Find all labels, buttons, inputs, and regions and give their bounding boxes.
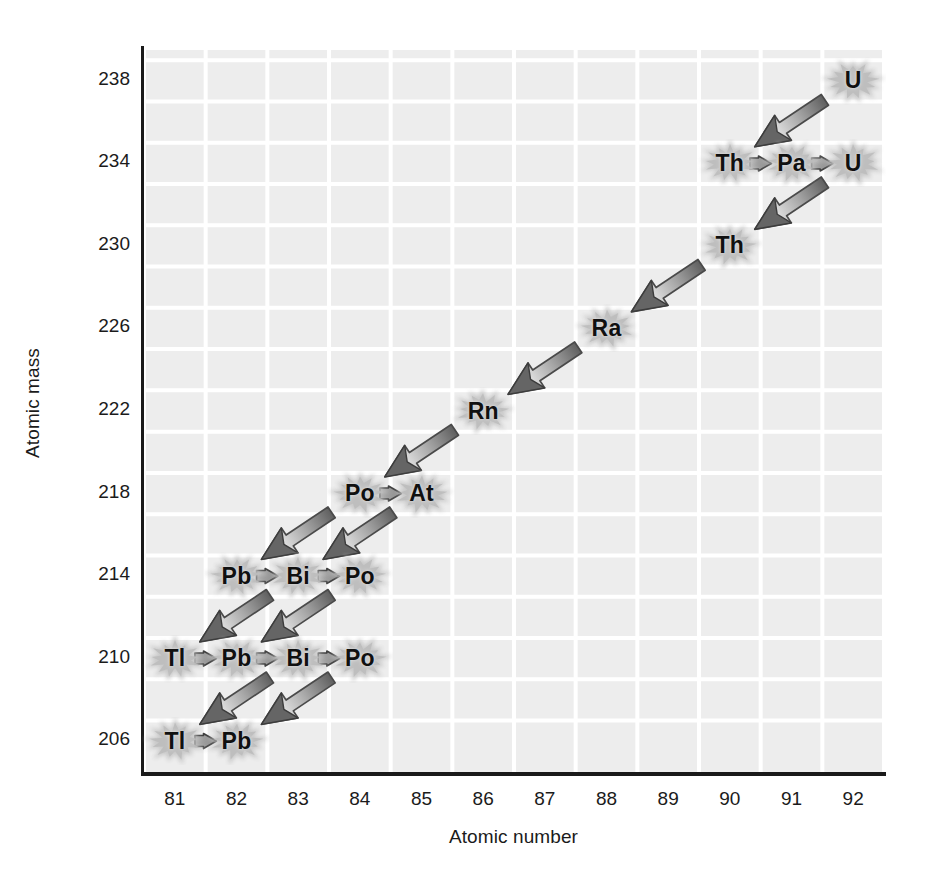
nuclide-symbol: Bi xyxy=(286,563,309,590)
nuclide-Pa-234[interactable]: Pa xyxy=(759,139,825,187)
nuclide-symbol: Pb xyxy=(222,728,252,755)
nuclide-symbol: Po xyxy=(345,563,375,590)
y-axis-tick-labels: 238234230226222218214210206 xyxy=(75,0,130,877)
nuclide-symbol: Pb xyxy=(222,645,252,672)
y-tick-238: 238 xyxy=(82,68,130,90)
nuclide-Tl-206[interactable]: Tl xyxy=(142,717,208,765)
y-tick-218: 218 xyxy=(82,481,130,503)
x-tick-83: 83 xyxy=(278,788,318,810)
nuclide-Bi-214[interactable]: Bi xyxy=(265,552,331,600)
nuclide-symbol: Th xyxy=(716,150,745,177)
nuclide-symbol: At xyxy=(409,480,434,507)
decay-series-figure: 238234230226222218214210206 Atomic mass xyxy=(0,0,926,877)
x-tick-84: 84 xyxy=(340,788,380,810)
y-axis-title: Atomic mass xyxy=(22,308,44,498)
x-tick-86: 86 xyxy=(463,788,503,810)
nuclide-Po-210[interactable]: Po xyxy=(327,635,393,683)
nuclide-Rn-222[interactable]: Rn xyxy=(450,387,516,435)
x-tick-90: 90 xyxy=(710,788,750,810)
nuclide-symbol: Pa xyxy=(777,150,806,177)
nuclide-U-234[interactable]: U xyxy=(820,139,886,187)
nuclide-Po-218[interactable]: Po xyxy=(327,470,393,518)
nuclide-U-238[interactable]: U xyxy=(820,57,886,105)
y-tick-226: 226 xyxy=(82,315,130,337)
y-tick-230: 230 xyxy=(82,233,130,255)
x-axis-line xyxy=(141,772,886,776)
nuclide-symbol: Po xyxy=(345,480,375,507)
nuclide-symbol: Tl xyxy=(164,728,185,755)
y-tick-234: 234 xyxy=(82,150,130,172)
nuclide-Pb-210[interactable]: Pb xyxy=(204,635,270,683)
x-tick-92: 92 xyxy=(833,788,873,810)
nuclide-Tl-210[interactable]: Tl xyxy=(142,635,208,683)
nuclide-symbol: Pb xyxy=(222,563,252,590)
x-tick-88: 88 xyxy=(587,788,627,810)
nuclide-Po-214[interactable]: Po xyxy=(327,552,393,600)
x-tick-87: 87 xyxy=(525,788,565,810)
nuclide-Th-230[interactable]: Th xyxy=(697,222,763,270)
x-tick-89: 89 xyxy=(648,788,688,810)
y-tick-222: 222 xyxy=(82,398,130,420)
x-tick-81: 81 xyxy=(155,788,195,810)
nuclide-symbol: Rn xyxy=(468,398,499,425)
nuclide-Pb-214[interactable]: Pb xyxy=(204,552,270,600)
nuclide-Ra-226[interactable]: Ra xyxy=(574,304,640,352)
nuclide-Th-234[interactable]: Th xyxy=(697,139,763,187)
nuclide-symbol: U xyxy=(845,150,862,177)
x-tick-91: 91 xyxy=(772,788,812,810)
nuclide-symbol: Po xyxy=(345,645,375,672)
nuclide-symbol: Ra xyxy=(592,315,622,342)
x-axis-title: Atomic number xyxy=(143,826,884,848)
nuclide-symbol: Bi xyxy=(286,645,309,672)
x-tick-85: 85 xyxy=(402,788,442,810)
nuclide-At-218[interactable]: At xyxy=(389,470,455,518)
nuclide-symbol: Tl xyxy=(164,645,185,672)
nuclide-symbol: U xyxy=(845,67,862,94)
nuclide-Bi-210[interactable]: Bi xyxy=(265,635,331,683)
x-tick-82: 82 xyxy=(217,788,257,810)
nuclide-Pb-206[interactable]: Pb xyxy=(204,717,270,765)
nuclide-symbol: Th xyxy=(716,232,745,259)
y-tick-210: 210 xyxy=(82,646,130,668)
y-tick-214: 214 xyxy=(82,563,130,585)
y-tick-206: 206 xyxy=(82,728,130,750)
